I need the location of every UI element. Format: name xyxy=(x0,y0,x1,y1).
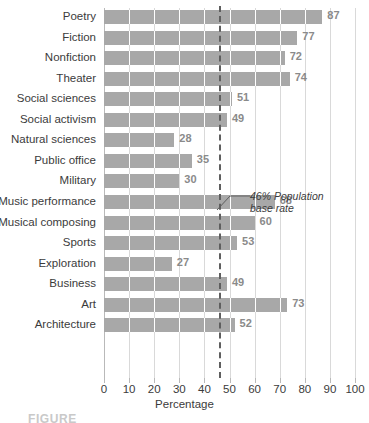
bar-theater xyxy=(104,72,290,86)
bar-gridline xyxy=(129,236,130,250)
bar-row: 49 xyxy=(104,277,355,291)
bar-gridline xyxy=(129,318,130,332)
bar-gridline xyxy=(154,236,155,250)
bar-gridline xyxy=(129,298,130,312)
category-label-nonfiction: Nonfiction xyxy=(0,51,96,63)
category-label-musical-composing: Musical composing xyxy=(0,216,96,228)
population-base-rate-annotation: 46% Population base rate xyxy=(250,190,324,214)
bar-art xyxy=(104,298,287,312)
bar-gridline xyxy=(129,31,130,45)
bar-row: 35 xyxy=(104,154,355,168)
bar-row: 28 xyxy=(104,133,355,147)
bar-gridline xyxy=(230,318,231,332)
bar-gridline xyxy=(129,51,130,65)
bar-gridline xyxy=(154,31,155,45)
bar-gridline xyxy=(129,195,130,209)
bar-gridline xyxy=(179,277,180,291)
bar-social-sciences xyxy=(104,92,232,106)
bar-row: 30 xyxy=(104,174,355,188)
bar-gridline xyxy=(230,298,231,312)
bar-value-label: 53 xyxy=(242,235,254,247)
bar-row: 51 xyxy=(104,92,355,106)
category-label-exploration: Exploration xyxy=(0,257,96,269)
bar-gridline xyxy=(129,92,130,106)
bar-gridline xyxy=(129,133,130,147)
bar-gridline xyxy=(154,174,155,188)
annotation-line-2: base rate xyxy=(250,202,324,214)
bar-gridline xyxy=(154,113,155,127)
bar-gridline xyxy=(154,154,155,168)
bar-gridline xyxy=(129,257,130,271)
bar-gridline xyxy=(179,154,180,168)
bar-gridline xyxy=(204,318,205,332)
figure-caption: FIGURE xyxy=(28,412,77,423)
bar-gridline xyxy=(255,51,256,65)
category-label-fiction: Fiction xyxy=(0,31,96,43)
bar-gridline xyxy=(129,277,130,291)
bar-gridline xyxy=(154,10,155,24)
bar-value-label: 73 xyxy=(292,297,304,309)
category-label-music-performance: Music performance xyxy=(0,195,96,207)
bar-gridline xyxy=(230,92,231,106)
bar-gridline xyxy=(280,31,281,45)
bar-gridline xyxy=(179,72,180,86)
gridline-100 xyxy=(355,8,356,380)
bar-value-label: 74 xyxy=(295,71,307,83)
bar-row: 27 xyxy=(104,257,355,271)
bar-gridline xyxy=(204,92,205,106)
bar-social-activism xyxy=(104,113,227,127)
bar-gridline xyxy=(129,216,130,230)
bar-nonfiction xyxy=(104,51,285,65)
x-axis-title: Percentage xyxy=(0,398,369,410)
bar-value-label: 52 xyxy=(240,317,252,329)
category-label-social-sciences: Social sciences xyxy=(0,92,96,104)
bar-poetry xyxy=(104,10,322,24)
category-label-poetry: Poetry xyxy=(0,10,96,22)
bar-gridline xyxy=(129,154,130,168)
bar-gridline xyxy=(179,298,180,312)
bar-gridline xyxy=(179,10,180,24)
bar-value-label: 72 xyxy=(290,50,302,62)
annotation-line-1: 46% Population xyxy=(250,190,324,202)
bar-value-label: 77 xyxy=(302,30,314,42)
bar-gridline xyxy=(179,236,180,250)
bar-exploration xyxy=(104,257,172,271)
bar-gridline xyxy=(255,10,256,24)
bar-gridline xyxy=(179,113,180,127)
bar-gridline xyxy=(179,31,180,45)
bar-gridline xyxy=(129,10,130,24)
category-label-business: Business xyxy=(0,277,96,289)
bar-gridline xyxy=(154,195,155,209)
bar-gridline xyxy=(230,72,231,86)
bar-value-label: 27 xyxy=(177,256,189,268)
bar-value-label: 87 xyxy=(327,9,339,21)
bar-gridline xyxy=(154,318,155,332)
bar-gridline xyxy=(305,10,306,24)
bar-natural-sciences xyxy=(104,133,174,147)
category-label-military: Military xyxy=(0,174,96,186)
bar-gridline xyxy=(204,277,205,291)
bar-gridline xyxy=(129,174,130,188)
bar-gridline xyxy=(255,72,256,86)
bar-gridline xyxy=(179,92,180,106)
bar-gridline xyxy=(129,113,130,127)
category-label-natural-sciences: Natural sciences xyxy=(0,133,96,145)
bar-value-label: 30 xyxy=(184,173,196,185)
bar-gridline xyxy=(179,318,180,332)
category-label-theater: Theater xyxy=(0,72,96,84)
bar-gridline xyxy=(204,72,205,86)
bar-gridline xyxy=(179,216,180,230)
bar-row: 49 xyxy=(104,113,355,127)
bar-gridline xyxy=(179,51,180,65)
bar-gridline xyxy=(154,133,155,147)
bar-row: 87 xyxy=(104,10,355,24)
bar-gridline xyxy=(230,216,231,230)
bar-gridline xyxy=(230,31,231,45)
bar-row: 74 xyxy=(104,72,355,86)
bar-gridline xyxy=(230,236,231,250)
bar-gridline xyxy=(230,51,231,65)
x-tick-label-100: 100 xyxy=(340,383,369,395)
bar-gridline xyxy=(280,72,281,86)
bar-sports xyxy=(104,236,237,250)
bar-row: 73 xyxy=(104,298,355,312)
